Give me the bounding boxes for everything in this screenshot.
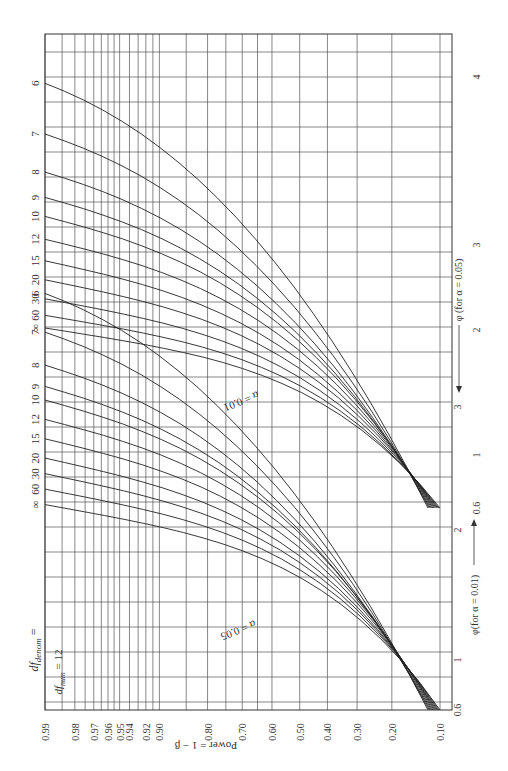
arrow-up-icon <box>471 519 477 526</box>
phi-tick-alpha01: 1 <box>452 658 463 663</box>
power-tick-label: 0.97 <box>89 723 100 741</box>
power-tick-label: 0.40 <box>322 723 333 741</box>
df-denom-label: 12 <box>29 234 41 245</box>
df-denom-label: 20 <box>29 274 41 286</box>
df-denom-label: 60 <box>29 483 41 495</box>
df-denom-label: 12 <box>29 414 41 425</box>
df-denom-label: 6 <box>29 290 41 296</box>
df-denom-label: 60 <box>29 309 41 321</box>
power-tick-label: 0.20 <box>387 723 398 741</box>
phi-tick-alpha01: 0.6 <box>452 704 463 717</box>
power-tick-label: 0.50 <box>295 723 306 741</box>
phi-tick-alpha05: 3 <box>471 243 482 248</box>
df-denom-label: 8 <box>29 169 41 175</box>
power-curve-001-df12 <box>45 419 434 710</box>
power-curve-001-df15 <box>45 439 435 710</box>
df-num-title: dfnum = 12 <box>52 649 67 694</box>
phi-tick-alpha01: 3 <box>452 405 463 410</box>
power-curve-001-df7 <box>45 332 429 710</box>
phi-tick-alpha05: 1 <box>471 453 482 458</box>
df-denom-label: 15 <box>29 433 41 445</box>
power-tick-label: 0.98 <box>70 723 81 741</box>
power-curve-005-df10 <box>45 216 433 508</box>
df-denom-label: 10 <box>29 210 41 222</box>
power-curve-001-df30 <box>45 474 438 710</box>
power-tick-label: 0.92 <box>141 723 152 741</box>
df-denom-label: 20 <box>29 452 41 464</box>
phi-axis-title-alpha01: φ(for α = 0.01) <box>469 575 481 635</box>
power-tick-label: 0.30 <box>352 723 363 741</box>
arrow-down-icon <box>456 386 462 393</box>
df-denom-title: dfdenom = <box>27 628 43 671</box>
df-denom-label: 7 <box>29 131 41 137</box>
phi-tick-alpha05: 2 <box>471 328 482 333</box>
power-axis-title: Power = 1 − β <box>174 740 237 752</box>
power-curve-005-df6 <box>45 83 428 508</box>
phi-tick-alpha01: 2 <box>452 528 463 533</box>
df-denom-label: 9 <box>29 194 41 200</box>
alpha-05-annotation: α = 0.05 <box>219 618 258 643</box>
df-denom-label: 30 <box>29 468 41 480</box>
power-curve-005-df12 <box>45 239 434 508</box>
power-chart: 6789101215203060∞6789101215203060∞0.990.… <box>0 0 508 771</box>
power-tick-label: 0.60 <box>267 723 278 741</box>
power-curve-005-df9 <box>45 197 432 508</box>
grid-lines <box>45 34 452 710</box>
df-denom-label: 7 <box>29 329 41 335</box>
df-denom-label: 15 <box>29 255 41 267</box>
power-tick-label: 0.10 <box>435 723 446 741</box>
power-curve-005-df8 <box>45 172 430 508</box>
phi-tick-alpha05: 4 <box>471 75 482 80</box>
power-curve-005-df15 <box>45 261 435 508</box>
phi-tick-alpha05: 0.6 <box>471 502 482 515</box>
power-curve-005-df20 <box>45 280 436 508</box>
power-tick-label: 0.94 <box>124 723 135 741</box>
power-tick-label: 0.70 <box>237 723 248 741</box>
df-denom-label: ∞ <box>29 501 41 509</box>
power-tick-label: 0.96 <box>103 723 114 741</box>
plot-frame <box>45 34 452 710</box>
alpha-01-annotation: α = 0.01 <box>222 389 261 414</box>
df-denom-label: 8 <box>29 362 41 368</box>
df-denom-label: 9 <box>29 383 41 389</box>
axis-labels: 6789101215203060∞6789101215203060∞0.990.… <box>27 75 482 753</box>
phi-axis-title-alpha05: φ (for α = 0.05) <box>453 259 465 321</box>
power-tick-label: 0.80 <box>203 723 214 741</box>
df-denom-label: 10 <box>29 394 41 406</box>
power-curve-001-df10 <box>45 400 433 710</box>
df-denom-label: 6 <box>29 80 41 86</box>
power-tick-label: 0.90 <box>154 723 165 741</box>
power-tick-label: 0.99 <box>40 723 51 741</box>
